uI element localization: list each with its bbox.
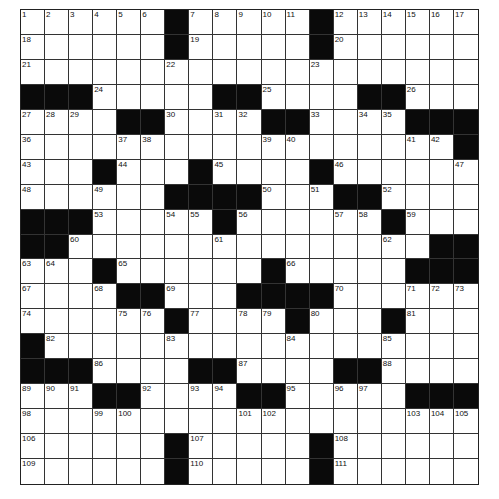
answer-cell[interactable] <box>141 409 165 434</box>
answer-cell[interactable] <box>213 60 237 85</box>
answer-cell[interactable] <box>430 210 454 235</box>
answer-cell[interactable] <box>430 334 454 359</box>
answer-cell[interactable] <box>382 60 406 85</box>
answer-cell[interactable] <box>286 359 310 384</box>
answer-cell[interactable] <box>117 85 141 110</box>
answer-cell[interactable]: 1 <box>21 10 45 35</box>
answer-cell[interactable]: 22 <box>165 60 189 85</box>
answer-cell[interactable] <box>358 235 382 260</box>
answer-cell[interactable]: 76 <box>141 309 165 334</box>
answer-cell[interactable] <box>189 284 213 309</box>
answer-cell[interactable]: 36 <box>21 135 45 160</box>
answer-cell[interactable]: 99 <box>93 409 117 434</box>
answer-cell[interactable] <box>141 334 165 359</box>
answer-cell[interactable]: 8 <box>213 10 237 35</box>
answer-cell[interactable] <box>310 259 334 284</box>
answer-cell[interactable]: 13 <box>358 10 382 35</box>
answer-cell[interactable] <box>430 359 454 384</box>
answer-cell[interactable] <box>454 60 478 85</box>
answer-cell[interactable]: 65 <box>117 259 141 284</box>
answer-cell[interactable]: 44 <box>117 160 141 185</box>
answer-cell[interactable] <box>93 110 117 135</box>
answer-cell[interactable] <box>358 160 382 185</box>
answer-cell[interactable] <box>213 459 237 484</box>
answer-cell[interactable] <box>93 334 117 359</box>
answer-cell[interactable] <box>286 434 310 459</box>
answer-cell[interactable]: 35 <box>382 110 406 135</box>
answer-cell[interactable]: 52 <box>382 185 406 210</box>
answer-cell[interactable]: 34 <box>358 110 382 135</box>
answer-cell[interactable]: 107 <box>189 434 213 459</box>
answer-cell[interactable] <box>141 434 165 459</box>
answer-cell[interactable] <box>358 135 382 160</box>
answer-cell[interactable] <box>310 334 334 359</box>
answer-cell[interactable] <box>165 384 189 409</box>
answer-cell[interactable] <box>237 235 261 260</box>
answer-cell[interactable] <box>382 384 406 409</box>
answer-cell[interactable]: 60 <box>69 235 93 260</box>
answer-cell[interactable] <box>117 359 141 384</box>
answer-cell[interactable] <box>262 459 286 484</box>
answer-cell[interactable]: 11 <box>286 10 310 35</box>
answer-cell[interactable] <box>358 60 382 85</box>
answer-cell[interactable] <box>141 60 165 85</box>
answer-cell[interactable]: 104 <box>430 409 454 434</box>
answer-cell[interactable] <box>69 434 93 459</box>
answer-cell[interactable] <box>93 135 117 160</box>
answer-cell[interactable]: 57 <box>334 210 358 235</box>
answer-cell[interactable] <box>454 185 478 210</box>
answer-cell[interactable] <box>237 35 261 60</box>
answer-cell[interactable] <box>189 409 213 434</box>
answer-cell[interactable]: 90 <box>45 384 69 409</box>
answer-cell[interactable] <box>93 235 117 260</box>
answer-cell[interactable]: 101 <box>237 409 261 434</box>
answer-cell[interactable]: 86 <box>93 359 117 384</box>
answer-cell[interactable] <box>69 309 93 334</box>
answer-cell[interactable] <box>237 434 261 459</box>
answer-cell[interactable] <box>334 85 358 110</box>
answer-cell[interactable] <box>45 135 69 160</box>
answer-cell[interactable] <box>406 160 430 185</box>
answer-cell[interactable]: 98 <box>21 409 45 434</box>
answer-cell[interactable] <box>262 160 286 185</box>
answer-cell[interactable]: 111 <box>334 459 358 484</box>
answer-cell[interactable]: 105 <box>454 409 478 434</box>
answer-cell[interactable] <box>165 409 189 434</box>
answer-cell[interactable]: 14 <box>382 10 406 35</box>
answer-cell[interactable]: 94 <box>213 384 237 409</box>
answer-cell[interactable] <box>334 110 358 135</box>
answer-cell[interactable] <box>69 259 93 284</box>
answer-cell[interactable] <box>334 235 358 260</box>
answer-cell[interactable]: 58 <box>358 210 382 235</box>
answer-cell[interactable] <box>430 309 454 334</box>
answer-cell[interactable] <box>334 309 358 334</box>
answer-cell[interactable] <box>141 210 165 235</box>
answer-cell[interactable]: 83 <box>165 334 189 359</box>
answer-cell[interactable] <box>45 309 69 334</box>
answer-cell[interactable] <box>454 35 478 60</box>
answer-cell[interactable] <box>213 309 237 334</box>
answer-cell[interactable] <box>382 135 406 160</box>
answer-cell[interactable]: 110 <box>189 459 213 484</box>
answer-cell[interactable] <box>430 185 454 210</box>
answer-cell[interactable]: 5 <box>117 10 141 35</box>
answer-cell[interactable] <box>286 409 310 434</box>
answer-cell[interactable] <box>69 160 93 185</box>
answer-cell[interactable] <box>334 409 358 434</box>
answer-cell[interactable] <box>430 85 454 110</box>
answer-cell[interactable] <box>117 434 141 459</box>
answer-cell[interactable] <box>358 309 382 334</box>
answer-cell[interactable] <box>117 185 141 210</box>
answer-cell[interactable] <box>189 85 213 110</box>
answer-cell[interactable] <box>406 334 430 359</box>
answer-cell[interactable]: 18 <box>21 35 45 60</box>
answer-cell[interactable]: 15 <box>406 10 430 35</box>
answer-cell[interactable] <box>45 160 69 185</box>
answer-cell[interactable] <box>165 160 189 185</box>
answer-cell[interactable] <box>237 160 261 185</box>
answer-cell[interactable] <box>358 434 382 459</box>
answer-cell[interactable] <box>213 284 237 309</box>
answer-cell[interactable]: 108 <box>334 434 358 459</box>
answer-cell[interactable]: 7 <box>189 10 213 35</box>
answer-cell[interactable] <box>286 235 310 260</box>
